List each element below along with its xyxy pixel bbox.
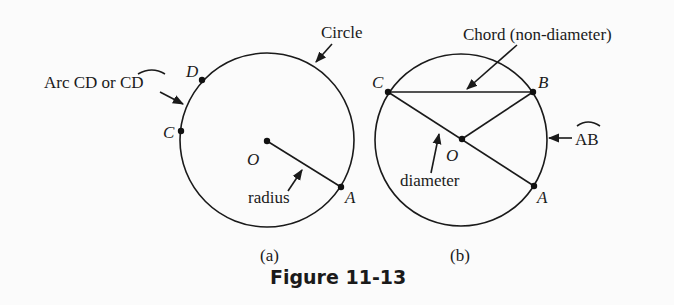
arrow-circle [316, 44, 332, 62]
point-a-a [338, 184, 344, 190]
label-a-a: A [344, 188, 356, 207]
label-diameter: diameter [400, 171, 460, 190]
label-o-b: O [446, 146, 458, 165]
sublabel-b: (b) [450, 246, 470, 265]
label-arc-ab: AB [575, 130, 599, 149]
label-b: B [538, 73, 549, 92]
figure-11-13: D C O A Circle Arc CD or CD radius (a) C… [0, 0, 674, 305]
point-c-a [178, 128, 184, 134]
label-circle: Circle [321, 23, 363, 42]
label-c-b: C [372, 73, 384, 92]
sublabel-a: (a) [260, 246, 279, 265]
label-c-a: C [163, 123, 175, 142]
arrow-radius [288, 170, 302, 191]
point-o-b [459, 136, 465, 142]
radius-ob-line [462, 92, 533, 139]
label-chord: Chord (non-diameter) [463, 25, 612, 44]
arrow-diameter [431, 134, 439, 173]
label-d: D [185, 62, 199, 81]
figure-caption: Figure 11-13 [270, 266, 406, 288]
point-c-b [385, 89, 391, 95]
label-a-b: A [536, 188, 548, 207]
panel-b: C B O A Chord (non-diameter) diameter AB… [372, 25, 612, 265]
panel-a: D C O A Circle Arc CD or CD radius (a) [44, 23, 363, 265]
arrow-chord [467, 45, 517, 89]
label-o-a: O [247, 150, 259, 169]
point-d [199, 77, 205, 83]
point-o-a [264, 138, 270, 144]
radius-line [267, 141, 341, 187]
arrow-arc-cd [160, 92, 183, 104]
arc-symbol-ab [577, 122, 600, 126]
diagram-canvas: D C O A Circle Arc CD or CD radius (a) C… [0, 0, 674, 305]
point-b [530, 89, 536, 95]
label-arc-cd: Arc CD or CD [44, 73, 144, 92]
label-radius: radius [248, 188, 290, 207]
